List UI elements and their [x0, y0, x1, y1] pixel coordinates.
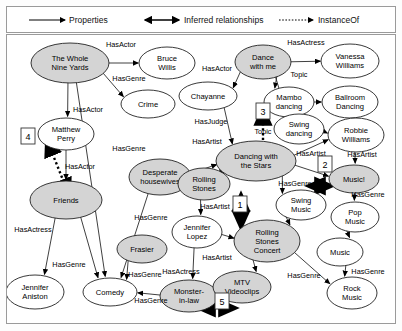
- node-label: Chayanne: [191, 92, 226, 101]
- property-edge: [138, 293, 163, 295]
- edge-label: HasActress: [287, 38, 325, 47]
- node-label: Music: [291, 205, 311, 214]
- node-label: Swing: [291, 196, 312, 205]
- edge-label: HasGenre: [351, 190, 384, 199]
- property-edge: [289, 61, 321, 62]
- graph-node-swingd[interactable]: Swingdancing: [274, 114, 324, 144]
- edge-label: HasArtist: [202, 253, 232, 262]
- node-label: Dance: [252, 53, 274, 62]
- graph-node-rockm[interactable]: RockMusic: [327, 277, 377, 309]
- edge-label: Topic: [290, 70, 307, 79]
- node-label: Mambo: [276, 93, 301, 102]
- edge-label: HasArtist: [347, 150, 377, 159]
- legend-label-inferred: Inferred relationships: [184, 15, 263, 25]
- node-label: Williams: [336, 61, 364, 70]
- graph-node-comedy[interactable]: Comedy: [83, 278, 137, 306]
- node-label: Nine Yards: [52, 63, 89, 72]
- inferred-box-2: 2: [318, 156, 332, 172]
- graph-node-monster[interactable]: Monster-in-law: [160, 280, 218, 312]
- node-label: Stones: [255, 237, 279, 246]
- edge-label: HasActor: [65, 162, 96, 171]
- node-label: Aniston: [22, 292, 47, 301]
- node-label: in-law: [179, 296, 199, 305]
- graph-node-rolling[interactable]: RollingStones: [178, 168, 230, 200]
- graph-svg: The WholeNine YardsBruceWillisCrimeMatth…: [7, 35, 393, 321]
- graph-node-music_ex[interactable]: Music!: [329, 165, 379, 193]
- inferred-box-3: 3: [256, 103, 270, 119]
- node-label: Dancing with: [234, 152, 277, 161]
- graph-node-friends[interactable]: Friends: [30, 181, 102, 219]
- node-label: Pop: [348, 208, 362, 217]
- edge-label: HasGenre: [351, 267, 384, 276]
- node-label: with me: [249, 62, 276, 71]
- edge-label: Topic: [254, 127, 271, 136]
- graph-node-robbie[interactable]: RobbieWilliams: [328, 118, 384, 152]
- graph-node-jen_lo[interactable]: JenniferLopez: [172, 216, 222, 248]
- graph-node-dws[interactable]: Dancing withthe Stars: [216, 141, 296, 181]
- diagram-root: Properties Inferred relationships Instan…: [0, 0, 402, 331]
- edge-label: HasArtist: [192, 137, 222, 146]
- node-label: Music: [342, 293, 362, 302]
- node-label: Music: [345, 217, 365, 226]
- edge-label: HasArtist: [200, 202, 230, 211]
- node-label: Rock: [343, 284, 361, 293]
- inferred-box-1: 1: [233, 196, 247, 212]
- graph-node-music[interactable]: Music: [317, 238, 363, 266]
- node-label: the Stars: [241, 161, 272, 170]
- edge-label: HasGenre: [52, 260, 85, 269]
- edge-label: HasActress: [14, 225, 52, 234]
- node-label: Friends: [53, 196, 79, 205]
- node-label: Videoclips: [225, 287, 260, 296]
- node-label: Perry: [57, 134, 75, 143]
- edge-label: HasActor: [106, 40, 137, 49]
- graph-node-rsconcert[interactable]: RollingStonesConcert: [234, 220, 300, 262]
- graph-node-matthew[interactable]: MatthewPerry: [38, 118, 94, 150]
- graph-node-popm[interactable]: PopMusic: [331, 202, 379, 232]
- graph-node-bruce[interactable]: BruceWillis: [139, 47, 195, 79]
- node-label: Robbie: [344, 126, 368, 135]
- node-label: Desperate: [142, 168, 177, 177]
- node-label: Lopez: [187, 232, 208, 241]
- edge-label: HasGenre: [134, 296, 167, 305]
- node-label: Swing: [289, 120, 310, 129]
- node-label: Willis: [158, 63, 176, 72]
- graph-node-frasier[interactable]: Frasier: [117, 235, 167, 263]
- inferred-box-number: 3: [260, 107, 265, 117]
- graph-node-dancewith[interactable]: Dancewith me: [235, 45, 291, 79]
- node-label: Comedy: [96, 288, 124, 297]
- edge-label: HasGenre: [278, 179, 311, 188]
- node-label: Vanessa: [336, 52, 366, 61]
- node-label: Ballroom: [335, 93, 365, 102]
- graph-node-crime[interactable]: Crime: [121, 90, 175, 118]
- graph-node-jen_an[interactable]: JenniferAniston: [7, 275, 64, 309]
- inferred-box-number: 1: [237, 200, 242, 210]
- graph-node-whole9[interactable]: The WholeNine Yards: [31, 43, 109, 83]
- node-label: Dancing: [336, 102, 364, 111]
- node-label: Crime: [138, 100, 158, 109]
- graph-node-chayanne[interactable]: Chayanne: [179, 82, 237, 110]
- edge-label: HasGenre: [134, 213, 167, 222]
- graph-node-mambo[interactable]: Mambodancing: [264, 87, 314, 117]
- graph-node-ballroom[interactable]: BallroomDancing: [322, 86, 378, 118]
- node-label: Bruce: [157, 54, 177, 63]
- node-label: Williams: [342, 135, 370, 144]
- legend-label-instanceof: InstanceOf: [318, 15, 359, 25]
- node-label: dancing: [276, 102, 303, 111]
- node-label: Music!: [343, 175, 365, 184]
- node-label: Music: [330, 248, 350, 257]
- legend-item-inferred: Inferred relationships: [184, 7, 263, 32]
- graph-node-vanessa[interactable]: VanessaWilliams: [321, 44, 379, 78]
- inferred-box-number: 2: [322, 160, 327, 170]
- legend-item-properties: Properties: [69, 7, 108, 32]
- edge-label: HasGenre: [112, 74, 145, 83]
- legend-label-properties: Properties: [69, 15, 108, 25]
- inferred-box-5: 5: [215, 293, 229, 309]
- inferred-box-4: 4: [21, 128, 35, 144]
- legend-panel: Properties Inferred relationships Instan…: [6, 6, 396, 33]
- node-label: Stones: [192, 184, 216, 193]
- node-label: Jennifer: [21, 283, 48, 292]
- legend-item-instanceof: InstanceOf: [318, 7, 359, 32]
- graph-node-swingm[interactable]: SwingMusic: [276, 190, 326, 220]
- node-label: Rolling: [255, 228, 278, 237]
- node-label: Jennifer: [183, 223, 210, 232]
